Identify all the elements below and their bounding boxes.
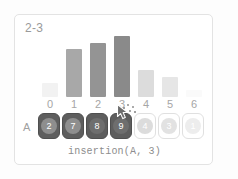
bar-column: [38, 29, 62, 97]
index-label: 4: [134, 98, 158, 110]
caption-text: insertion(A, 3): [15, 146, 214, 157]
bar-column: [86, 29, 110, 97]
array-cell[interactable]: 7: [62, 113, 84, 139]
array-cell-value: 2: [41, 118, 57, 134]
bar: [42, 83, 58, 97]
index-label: 5: [158, 98, 182, 110]
array-cells: 2789431: [38, 113, 206, 141]
bar-column: [182, 29, 206, 97]
screenshot-root: 2-3 0123456 A 2789431 insertion(A, 3): [0, 0, 238, 179]
index-axis: 0123456: [38, 98, 206, 112]
array-cell[interactable]: 3: [158, 113, 180, 139]
bar-column: [110, 29, 134, 97]
array-cell-value: 3: [161, 118, 177, 134]
bar: [186, 90, 202, 97]
array-cell-value: 4: [137, 118, 153, 134]
array-name-label: A: [23, 121, 30, 133]
index-label: 2: [86, 98, 110, 110]
array-cell-value: 7: [65, 118, 81, 134]
bar-column: [158, 29, 182, 97]
array-cell[interactable]: 1: [182, 113, 204, 139]
bar: [114, 36, 130, 97]
array-cell-value: 8: [89, 118, 105, 134]
bar-column: [134, 29, 158, 97]
bar: [162, 77, 178, 97]
bar: [138, 70, 154, 97]
bar-column: [62, 29, 86, 97]
bar: [90, 43, 106, 97]
array-cell[interactable]: 9: [110, 113, 132, 139]
bar-chart: [38, 29, 206, 97]
array-cell-value: 1: [185, 118, 201, 134]
array-cell[interactable]: 8: [86, 113, 108, 139]
bar: [66, 49, 82, 97]
visualization-card: 2-3 0123456 A 2789431 insertion(A, 3): [14, 14, 213, 165]
index-label: 3: [110, 98, 134, 110]
array-cell[interactable]: 2: [38, 113, 60, 139]
index-label: 1: [62, 98, 86, 110]
index-label: 0: [38, 98, 62, 110]
index-label: 6: [182, 98, 206, 110]
array-cell-value: 9: [113, 118, 129, 134]
array-cell[interactable]: 4: [134, 113, 156, 139]
